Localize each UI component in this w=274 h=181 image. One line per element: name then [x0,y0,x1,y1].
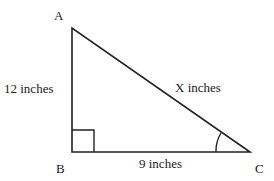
vertex-label-b: B [56,161,65,176]
triangle-diagram: A B C 12 inches 9 inches X inches [0,0,274,181]
side-label-ac: X inches [175,80,221,95]
triangle-shape [72,28,250,152]
right-angle-marker [72,130,94,152]
side-label-bc: 9 inches [139,156,182,171]
vertex-label-c: C [255,161,264,176]
angle-arc-c [216,133,221,152]
side-label-ab: 12 inches [4,81,53,96]
vertex-label-a: A [54,8,64,23]
